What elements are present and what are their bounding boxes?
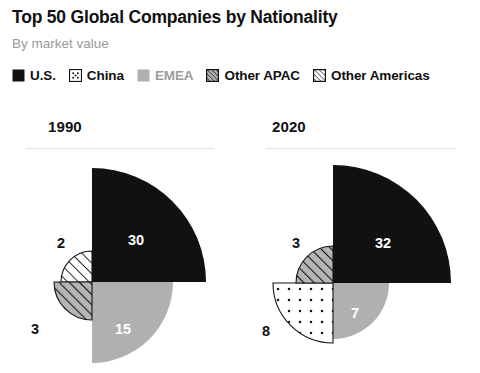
value-label-1990-other-americas: 2 <box>57 235 65 251</box>
wedge-1990-other-apac[interactable] <box>54 282 92 320</box>
wedge-1990-us[interactable] <box>92 168 206 282</box>
chart-root: Top 50 Global Companies by Nationality B… <box>0 0 480 373</box>
value-label-2020-emea: 7 <box>351 305 359 321</box>
value-label-1990-us: 30 <box>128 232 144 248</box>
value-label-2020-china: 8 <box>262 323 270 339</box>
value-label-1990-other-apac: 3 <box>31 321 39 337</box>
quadrant-chart-1990: 30 15 2 3 <box>31 168 206 363</box>
value-label-2020-us: 32 <box>375 235 391 251</box>
value-label-1990-emea: 15 <box>115 321 131 337</box>
wedge-2020-us[interactable] <box>333 165 451 283</box>
quadrant-charts: 30 15 2 3 32 7 3 8 <box>0 0 480 373</box>
wedge-2020-other-apac[interactable] <box>296 246 333 283</box>
quadrant-chart-2020: 32 7 3 8 <box>262 165 451 343</box>
value-label-2020-other-apac: 3 <box>292 235 300 251</box>
wedge-1990-other-americas[interactable] <box>61 251 92 282</box>
wedge-2020-emea[interactable] <box>333 283 389 339</box>
wedge-1990-emea[interactable] <box>92 282 173 363</box>
wedge-2020-china[interactable] <box>273 283 333 343</box>
